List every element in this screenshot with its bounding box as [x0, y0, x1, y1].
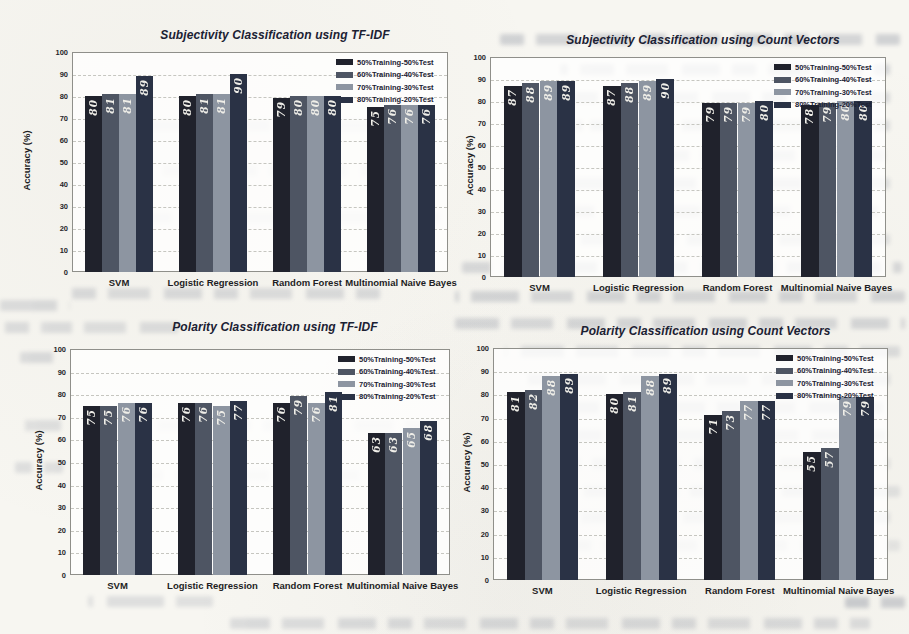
scanned-figure-page: Subjectivity Classification using TF-IDF… — [0, 0, 909, 634]
bar — [856, 397, 874, 580]
y-tick-label: 30 — [463, 506, 489, 515]
bar — [560, 374, 578, 580]
bar-value-label: 88 — [644, 379, 657, 396]
legend-color-chip — [776, 368, 793, 374]
y-tick-label: 100 — [463, 344, 489, 353]
legend-color-chip — [776, 355, 793, 361]
y-tick-label: 70 — [463, 414, 489, 423]
legend-row: 80%Training-20%Test — [776, 390, 874, 403]
y-tick-label: 50 — [463, 460, 489, 469]
bar-value-label: 73 — [724, 414, 737, 431]
bar — [507, 392, 525, 580]
y-tick-label: 40 — [463, 483, 489, 492]
bar-value-label: 81 — [509, 395, 522, 412]
bar-value-label: 79 — [859, 400, 872, 417]
bar — [525, 390, 543, 580]
bar — [623, 392, 641, 580]
bar — [740, 401, 758, 580]
legend: 50%Training-50%Test60%Training-40%Test70… — [776, 352, 874, 402]
bar-value-label: 80 — [608, 397, 621, 414]
bar-value-label: 77 — [742, 404, 755, 421]
bar-value-label: 89 — [661, 377, 674, 394]
bar-value-label: 81 — [626, 395, 639, 412]
legend-row: 70%Training-30%Test — [776, 377, 874, 390]
bar — [758, 401, 776, 580]
bar-value-label: 82 — [527, 393, 540, 410]
chart-title: Polarity Classification using Count Vect… — [536, 324, 876, 338]
legend-row: 60%Training-40%Test — [776, 365, 874, 378]
bar-value-label: 71 — [707, 418, 720, 435]
chart-polarity-countvectors: Polarity Classification using Count Vect… — [0, 0, 909, 634]
bar — [542, 376, 560, 580]
bar-value-label: 88 — [545, 379, 558, 396]
y-tick-label: 10 — [463, 553, 489, 562]
bar — [641, 376, 659, 580]
bar-value-label: 55 — [805, 455, 818, 472]
bar — [704, 415, 722, 580]
x-category-label: Multinomial Naive Bayes — [781, 585, 897, 596]
y-tick-label: 90 — [463, 367, 489, 376]
bar-value-label: 89 — [563, 377, 576, 394]
legend-color-chip — [776, 393, 793, 399]
legend-label: 50%Training-50%Test — [797, 354, 874, 363]
bar-value-label: 79 — [841, 400, 854, 417]
bar — [839, 397, 857, 580]
y-tick-label: 80 — [463, 390, 489, 399]
bar — [606, 394, 624, 580]
y-tick-label: 60 — [463, 437, 489, 446]
legend-label: 80%Training-20%Test — [797, 391, 874, 400]
bar — [659, 374, 677, 580]
y-tick-label: 20 — [463, 530, 489, 539]
legend-label: 60%Training-40%Test — [797, 366, 874, 375]
legend-color-chip — [776, 380, 793, 386]
bar — [722, 411, 740, 580]
bar-value-label: 77 — [760, 404, 773, 421]
bar-value-label: 57 — [823, 451, 836, 468]
y-tick-label: 0 — [463, 576, 489, 585]
legend-label: 70%Training-30%Test — [797, 379, 874, 388]
legend-row: 50%Training-50%Test — [776, 352, 874, 365]
